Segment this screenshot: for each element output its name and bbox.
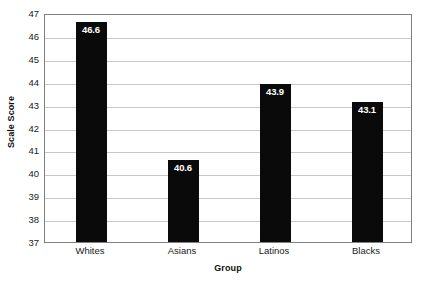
- y-axis-tick-label: 40: [28, 170, 39, 180]
- x-axis-title: Group: [44, 263, 412, 273]
- x-axis-tick-label: Blacks: [352, 246, 380, 256]
- y-axis-title-text: Scale Score: [6, 95, 16, 147]
- x-axis-tick-label: Latinos: [259, 246, 290, 256]
- x-axis-tick-label: Asians: [168, 246, 197, 256]
- x-axis-tick-label: Whites: [75, 246, 104, 256]
- y-axis-title: Scale Score: [0, 0, 22, 243]
- y-axis-tick-label: 42: [28, 124, 39, 134]
- y-axis-tick-label: 47: [28, 9, 39, 19]
- bar: 40.6: [168, 160, 199, 242]
- y-axis-tick-label: 37: [28, 238, 39, 248]
- x-axis-tick-labels: WhitesAsiansLatinosBlacks: [44, 246, 412, 262]
- y-axis-tick-label: 46: [28, 32, 39, 42]
- y-axis-tick-label: 44: [28, 78, 39, 88]
- bar-value-label: 40.6: [168, 163, 199, 173]
- bar: 46.6: [76, 22, 107, 242]
- y-axis-tick-labels: 4746454443424140393837: [20, 14, 42, 243]
- bar-value-label: 46.6: [76, 25, 107, 35]
- bar: 43.9: [260, 84, 291, 242]
- y-axis-tick-label: 38: [28, 215, 39, 225]
- plot-area: 46.640.643.943.1: [44, 14, 412, 243]
- bar-value-label: 43.1: [352, 105, 383, 115]
- y-axis-tick-label: 45: [28, 55, 39, 65]
- y-axis-tick-label: 41: [28, 147, 39, 157]
- y-axis-tick-label: 39: [28, 192, 39, 202]
- bar-series: 46.640.643.943.1: [45, 15, 411, 242]
- bar-chart: Scale Score 4746454443424140393837 46.64…: [0, 0, 427, 285]
- bar: 43.1: [352, 102, 383, 242]
- y-axis-tick-label: 43: [28, 101, 39, 111]
- bar-value-label: 43.9: [260, 87, 291, 97]
